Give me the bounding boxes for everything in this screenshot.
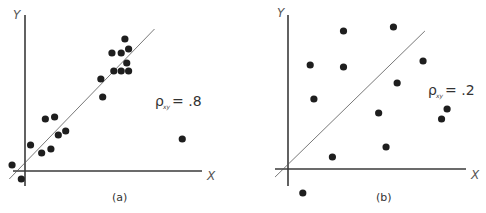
data-point — [340, 27, 347, 34]
x-axis-label: X — [206, 169, 216, 183]
fit-line — [275, 31, 425, 177]
data-point — [307, 61, 314, 68]
data-point — [51, 113, 58, 120]
rho-value: = .2 — [445, 82, 475, 98]
data-point — [47, 145, 54, 152]
panel-label: (a) — [112, 191, 127, 204]
data-point — [125, 67, 132, 74]
fit-line — [9, 29, 154, 179]
rho-subscript: xy — [435, 92, 444, 100]
data-point — [108, 49, 115, 56]
data-point — [438, 115, 445, 122]
rho-value: = .8 — [172, 93, 202, 109]
data-point — [118, 67, 125, 74]
data-point — [55, 131, 62, 138]
data-point — [18, 175, 25, 182]
data-point — [42, 115, 49, 122]
data-point — [125, 45, 132, 52]
data-point — [38, 149, 45, 156]
data-point — [121, 35, 128, 42]
data-point — [8, 161, 15, 168]
data-point — [62, 127, 69, 134]
correlation-annotation: ρ xy = .8 — [155, 93, 202, 111]
data-point — [444, 105, 451, 112]
data-point — [340, 63, 347, 70]
data-point — [299, 189, 306, 196]
data-point — [123, 59, 130, 66]
rho-subscript: xy — [162, 103, 171, 111]
data-point — [97, 75, 104, 82]
points — [8, 35, 185, 182]
points — [299, 23, 451, 196]
scatter-figure: Y X ρ xy = .8 (a) Y X ρ xy = .2 (b) — [0, 0, 486, 213]
data-point — [394, 79, 401, 86]
data-point — [419, 57, 426, 64]
data-point — [329, 153, 336, 160]
data-point — [375, 109, 382, 116]
panel-b: Y X ρ xy = .2 (b) — [275, 6, 480, 204]
correlation-annotation: ρ xy = .2 — [428, 82, 475, 100]
data-point — [110, 67, 117, 74]
data-point — [390, 23, 397, 30]
data-point — [310, 95, 317, 102]
data-point — [382, 143, 389, 150]
data-point — [179, 135, 186, 142]
data-point — [118, 49, 125, 56]
x-axis-label: X — [470, 168, 480, 182]
y-axis-label: Y — [13, 8, 22, 22]
y-axis-label: Y — [277, 6, 286, 20]
data-point — [27, 141, 34, 148]
panel-a: Y X ρ xy = .8 (a) — [8, 8, 216, 204]
panel-label: (b) — [376, 191, 392, 204]
data-point — [99, 93, 106, 100]
